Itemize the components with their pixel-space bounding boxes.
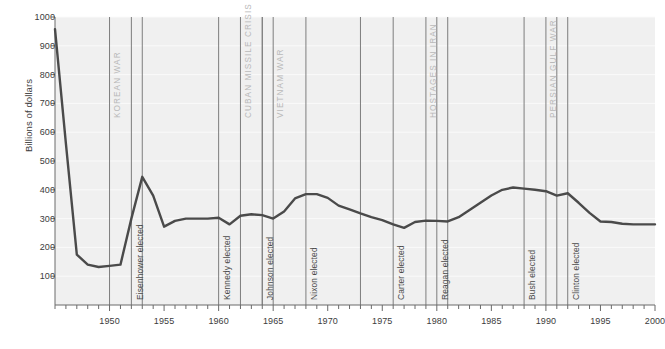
y-tick-label: 100 — [11, 271, 55, 281]
y-tick-label: 900 — [11, 41, 55, 51]
x-tick-label: 2000 — [645, 316, 665, 326]
y-tick-label: 200 — [11, 242, 55, 252]
x-tick-label: 1960 — [208, 316, 228, 326]
y-tick-label: 600 — [11, 127, 55, 137]
x-tick-label: 1975 — [372, 316, 392, 326]
x-tick-label: 1950 — [99, 316, 119, 326]
x-tick-label: 1990 — [536, 316, 556, 326]
x-tick-label: 1965 — [263, 316, 283, 326]
x-tick-marks — [55, 305, 655, 311]
x-tick-label: 1970 — [318, 316, 338, 326]
y-axis-tick-labels: 1002003004005006007008009001000 — [0, 0, 55, 349]
y-tick-label: 500 — [11, 156, 55, 166]
x-tick-label: 1995 — [590, 316, 610, 326]
y-tick-label: 700 — [11, 98, 55, 108]
y-tick-label: 800 — [11, 70, 55, 80]
y-tick-label: 400 — [11, 185, 55, 195]
y-tick-label: 300 — [11, 214, 55, 224]
x-tick-label: 1955 — [154, 316, 174, 326]
x-tick-label: 1980 — [427, 316, 447, 326]
y-tick-label: 1000 — [11, 12, 55, 22]
x-tick-label: 1985 — [481, 316, 501, 326]
